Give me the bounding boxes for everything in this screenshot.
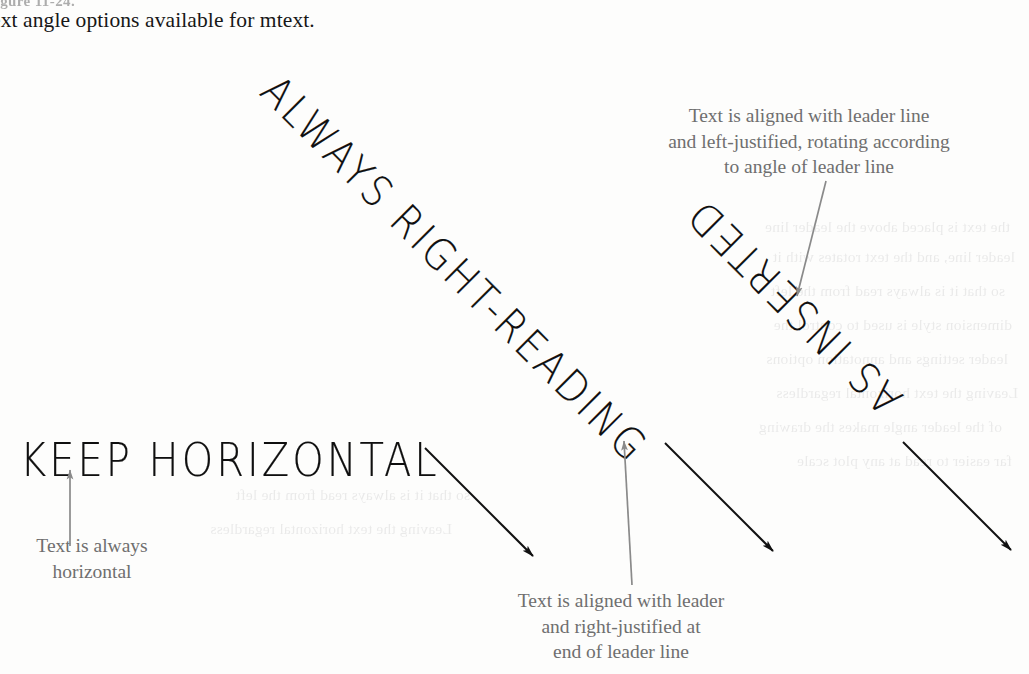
leader-as-inserted [903,442,1011,550]
cad-label-as-inserted: AS INSERTED [677,189,912,424]
cad-label-always-right-reading: ALWAYS RIGHT-READING [251,66,657,472]
figure-caption: ext angle options available for mtext. [0,8,315,33]
ghost-line: far easier to read at any plot scale [797,452,1012,470]
ghost-line: of the leader angle makes the drawing [759,418,1002,436]
leader-keep-horizontal [425,448,533,556]
leader-right-reading [665,443,773,551]
cad-label-keep-horizontal: KEEP HORIZONTAL [20,434,440,486]
ghost-line: Leaving the text horizontal regardless [210,520,452,538]
leader-group [425,442,1011,556]
ghost-line: so that it is always read from the left [236,486,470,504]
ghost-line: the text is placed above the leader line [765,218,1010,236]
annotation-right-justified: Text is aligned with leader and right-ju… [456,588,786,665]
ghost-line: leader line, and the text rotates with i… [773,248,1015,266]
annotation-always-horizontal: Text is always horizontal [2,533,182,584]
figure-page: the text is placed above the leader line… [0,0,1029,674]
annotation-left-justified: Text is aligned with leader line and lef… [614,103,1004,180]
